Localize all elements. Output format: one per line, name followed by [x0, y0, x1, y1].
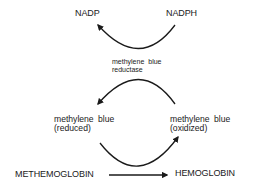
nadp-label: NADP [75, 9, 100, 19]
reduced-to-oxidized-arrow [100, 137, 178, 166]
methylene-blue-reduced-label: methylene blue (reduced) [54, 115, 114, 134]
methylene-blue-oxidized-label: methylene blue (oxidized) [170, 115, 230, 134]
hemoglobin-label: HEMOGLOBIN [175, 169, 235, 179]
nadph-label: NADPH [166, 9, 197, 19]
nadph-to-nadp-arrow [98, 25, 175, 49]
oxidized-to-reduced-arrow [98, 80, 175, 105]
enzyme-label-line2: reductase [112, 66, 161, 74]
methylene-blue-reduced-line2: (reduced) [54, 124, 114, 133]
pathway-arrows [0, 0, 254, 193]
methemoglobin-label: METHEMOGLOBIN [15, 170, 94, 180]
enzyme-label: methylene blue reductase [112, 58, 161, 75]
methylene-blue-oxidized-line2: (oxidized) [170, 124, 230, 133]
enzyme-label-line1: methylene blue [112, 58, 161, 66]
